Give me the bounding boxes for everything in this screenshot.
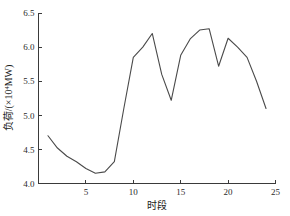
y-tick-label: 5.5 xyxy=(23,76,35,86)
y-axis-title-prefix: 负荷/(×10 xyxy=(2,90,15,132)
x-axis-ticks xyxy=(86,180,276,184)
y-tick-label: 4.5 xyxy=(23,145,35,155)
y-tick-label: 5.0 xyxy=(23,111,35,121)
x-axis-tick-labels: 510152025 xyxy=(84,187,281,197)
chart-plot-area: 4.04.55.05.56.06.5 510152025 时段 负荷/(×104… xyxy=(0,0,290,216)
y-tick-label: 6.0 xyxy=(23,42,35,52)
x-tick-label: 25 xyxy=(271,187,281,197)
x-tick-label: 5 xyxy=(84,187,89,197)
y-axis-tick-labels: 4.04.55.05.56.06.5 xyxy=(23,8,35,189)
y-axis-title: 负荷/(×104MW) xyxy=(2,65,15,132)
load-series-line xyxy=(48,29,266,174)
x-tick-label: 15 xyxy=(176,187,186,197)
y-axis-title-suffix: MW) xyxy=(3,65,15,87)
y-tick-label: 6.5 xyxy=(23,8,35,18)
x-axis-title: 时段 xyxy=(147,199,167,211)
load-curve-chart: 4.04.55.05.56.06.5 510152025 时段 负荷/(×104… xyxy=(0,0,290,216)
y-tick-label: 4.0 xyxy=(23,179,35,189)
x-tick-label: 10 xyxy=(129,187,139,197)
x-tick-label: 20 xyxy=(224,187,234,197)
y-axis-ticks xyxy=(39,13,43,184)
chart-axes xyxy=(39,13,276,184)
